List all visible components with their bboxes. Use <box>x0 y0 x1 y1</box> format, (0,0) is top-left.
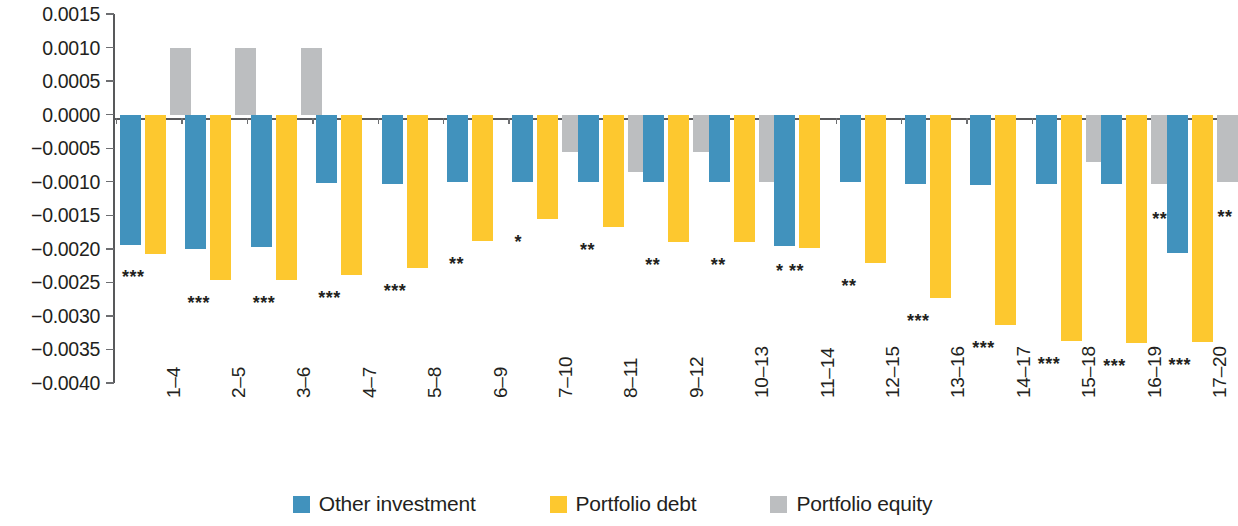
plot-area <box>113 14 1225 383</box>
legend-item: Portfolio debt <box>550 492 697 516</box>
x-axis-label: 8–11 <box>620 358 642 398</box>
x-axis-label: 15–18 <box>1078 346 1100 398</box>
x-axis-label: 4–7 <box>359 367 381 398</box>
significance-marker-equity: ** <box>1152 210 1167 228</box>
significance-marker: *** <box>253 294 276 312</box>
legend-label: Portfolio debt <box>576 492 697 516</box>
y-tick-label: 0.0005 <box>0 70 100 93</box>
bar-other-investment <box>512 115 533 182</box>
legend-label: Other investment <box>319 492 476 516</box>
y-tick-label: −0.0010 <box>0 170 100 193</box>
significance-marker: *** <box>907 312 930 330</box>
bar-portfolio-debt <box>930 115 951 298</box>
y-tick-label: 0.0010 <box>0 36 100 59</box>
legend-item: Portfolio equity <box>770 492 932 516</box>
y-tick-label: 0.0000 <box>0 103 100 126</box>
x-axis-label: 9–12 <box>686 357 708 398</box>
bar-group <box>643 14 714 383</box>
bar-other-investment <box>1167 115 1188 253</box>
y-tick-label: −0.0035 <box>0 338 100 361</box>
bar-portfolio-debt <box>995 115 1016 325</box>
y-tick-label: −0.0040 <box>0 372 100 395</box>
bar-other-investment <box>1036 115 1057 185</box>
x-axis-label: 13–16 <box>947 346 969 398</box>
x-axis-label: 5–8 <box>424 367 446 398</box>
y-tick-label: −0.0030 <box>0 304 100 327</box>
bar-other-investment <box>709 115 730 182</box>
x-axis-label: 14–17 <box>1013 346 1035 398</box>
legend-label: Portfolio equity <box>796 492 932 516</box>
bar-other-investment <box>316 115 337 183</box>
significance-marker: *** <box>122 268 145 286</box>
chart-legend: Other investmentPortfolio debtPortfolio … <box>0 492 1225 516</box>
bar-portfolio-debt <box>1061 115 1082 341</box>
bar-group <box>120 14 191 383</box>
bar-group <box>512 14 583 383</box>
bar-portfolio-equity <box>1217 115 1238 182</box>
y-tick-label: 0.0015 <box>0 3 100 26</box>
bar-other-investment <box>120 115 141 246</box>
bar-portfolio-debt <box>668 115 689 242</box>
bar-group <box>185 14 256 383</box>
significance-marker: *** <box>187 294 210 312</box>
significance-marker: *** <box>972 339 995 357</box>
significance-marker: * <box>514 233 522 251</box>
significance-marker: *** <box>384 282 407 300</box>
legend-swatch-icon <box>550 496 567 513</box>
bar-other-investment <box>447 115 468 182</box>
bar-portfolio-debt <box>210 115 231 281</box>
x-axis-label: 1–4 <box>163 367 185 398</box>
x-axis-label: 6–9 <box>490 367 512 398</box>
significance-marker: *** <box>1169 356 1192 374</box>
bar-other-investment <box>905 115 926 184</box>
y-tick-label: −0.0025 <box>0 271 100 294</box>
significance-marker-equity: ** <box>1218 208 1233 226</box>
bar-other-investment <box>970 115 991 185</box>
significance-marker: * ** <box>776 262 804 280</box>
bar-group <box>578 14 649 383</box>
x-axis-label: 3–6 <box>293 367 315 398</box>
bar-group <box>774 14 845 383</box>
legend-swatch-icon <box>770 496 787 513</box>
y-tick-label: −0.0015 <box>0 204 100 227</box>
x-axis-label: 10–13 <box>751 346 773 398</box>
bar-portfolio-debt <box>865 115 886 263</box>
y-tick-label: −0.0005 <box>0 137 100 160</box>
x-axis-label: 17–20 <box>1209 346 1231 398</box>
bar-portfolio-debt <box>1126 115 1147 343</box>
bar-other-investment <box>185 115 206 249</box>
significance-marker: ** <box>842 277 857 295</box>
bar-portfolio-debt <box>799 115 820 249</box>
significance-marker: ** <box>645 256 660 274</box>
legend-item: Other investment <box>293 492 476 516</box>
bar-group <box>251 14 322 383</box>
bar-portfolio-debt <box>603 115 624 227</box>
bar-group <box>1101 14 1172 383</box>
x-axis-label: 12–15 <box>882 346 904 398</box>
bar-other-investment <box>382 115 403 184</box>
bar-portfolio-debt <box>1192 115 1213 342</box>
bar-group <box>840 14 911 383</box>
bar-group <box>447 14 518 383</box>
x-axis-label: 2–5 <box>228 367 250 398</box>
bar-portfolio-debt <box>537 115 558 219</box>
bar-other-investment <box>840 115 861 182</box>
y-tick-label: −0.0020 <box>0 237 100 260</box>
x-axis-label: 16–19 <box>1144 346 1166 398</box>
bar-other-investment <box>1101 115 1122 185</box>
bar-group <box>382 14 453 383</box>
bar-other-investment <box>774 115 795 246</box>
significance-marker: ** <box>580 241 595 259</box>
bar-portfolio-debt <box>734 115 755 242</box>
bar-other-investment <box>251 115 272 248</box>
significance-marker: *** <box>1103 357 1126 375</box>
bar-other-investment <box>643 115 664 182</box>
bar-portfolio-debt <box>341 115 362 275</box>
bar-portfolio-debt <box>407 115 428 269</box>
bar-group <box>970 14 1041 383</box>
x-axis-label: 11–14 <box>817 348 839 398</box>
bar-portfolio-debt <box>276 115 297 281</box>
bar-group <box>709 14 780 383</box>
legend-swatch-icon <box>293 496 310 513</box>
